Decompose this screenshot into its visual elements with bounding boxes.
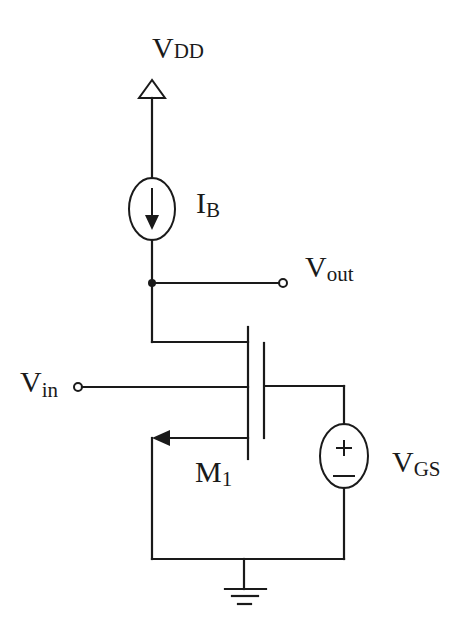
vin-terminal-icon[interactable] [74, 383, 82, 391]
current-source-ib [129, 178, 175, 240]
vout-label: Vout [305, 250, 354, 286]
ib-label: IB [196, 186, 220, 222]
voltage-source-vgs [320, 424, 368, 488]
arrow-down-icon [145, 215, 159, 230]
vin-label: Vin [20, 365, 59, 402]
circuit-schematic: VDD IB Vout Vin M1 [0, 0, 467, 638]
vgs-label: VGS [392, 445, 441, 481]
nmos-transistor-m1 [248, 327, 264, 459]
ground-icon [225, 559, 266, 604]
vdd-label: VDD [152, 31, 204, 64]
vout-terminal-icon[interactable] [279, 279, 287, 287]
vdd-supply-icon [139, 80, 165, 98]
source-arrow-icon [152, 430, 170, 446]
m1-label: M1 [195, 455, 232, 491]
